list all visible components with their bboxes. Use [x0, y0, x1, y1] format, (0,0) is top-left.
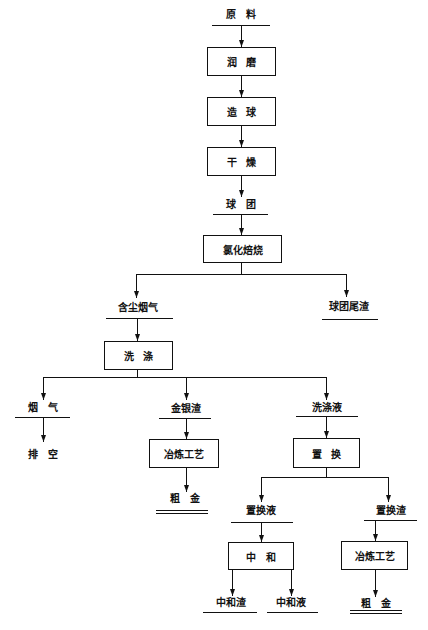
process-box-grinding: 润 磨	[207, 47, 276, 76]
process-label: 冶炼工艺	[164, 446, 204, 461]
process-label: 造 球	[227, 104, 256, 119]
material-neutralization-liquor: 中和液	[276, 597, 306, 609]
process-label: 中 和	[246, 549, 275, 564]
material-crude-gold-right: 粗 金	[361, 598, 390, 610]
process-label: 置 换	[312, 446, 341, 461]
process-label: 润 磨	[227, 54, 256, 69]
material-raw-material: 原 料	[226, 9, 255, 21]
material-pellets: 球 团	[226, 199, 255, 211]
process-label: 干 燥	[227, 154, 256, 169]
process-box-chlorination-roasting: 氯化焙烧	[203, 235, 282, 263]
process-box-pelletizing: 造 球	[207, 97, 276, 126]
process-box-neutralization: 中 和	[228, 542, 294, 570]
process-box-smelting-left: 冶炼工艺	[149, 439, 219, 468]
process-box-drying: 干 燥	[207, 147, 276, 176]
material-replacement-residue: 置换渣	[376, 505, 406, 517]
material-flue-gas: 烟 气	[28, 402, 57, 414]
material-wash-liquor: 洗涤液	[312, 402, 342, 414]
material-gold-silver-residue: 金银渣	[171, 403, 201, 415]
material-dusty-flue-gas: 含尘烟气	[118, 302, 158, 314]
process-label: 冶炼工艺	[355, 548, 395, 563]
material-neutralization-residue: 中和渣	[216, 597, 246, 609]
material-crude-gold-left: 粗 金	[170, 493, 199, 505]
material-vent: 排 空	[28, 449, 57, 461]
process-box-smelting-right: 冶炼工艺	[341, 541, 408, 570]
process-label: 氯化焙烧	[223, 242, 263, 257]
flow-connectors	[0, 0, 428, 630]
material-pellet-tailings: 球团尾渣	[329, 301, 369, 313]
process-box-replacement: 置 换	[293, 438, 360, 468]
flowchart-canvas: 润 磨 造 球 干 燥 氯化焙烧 洗 涤 冶炼工艺 置 换 中 和 冶炼工艺 原…	[0, 0, 428, 630]
process-label: 洗 涤	[124, 348, 153, 363]
process-box-washing: 洗 涤	[104, 341, 173, 370]
material-replacement-liquor: 置换液	[246, 505, 276, 517]
